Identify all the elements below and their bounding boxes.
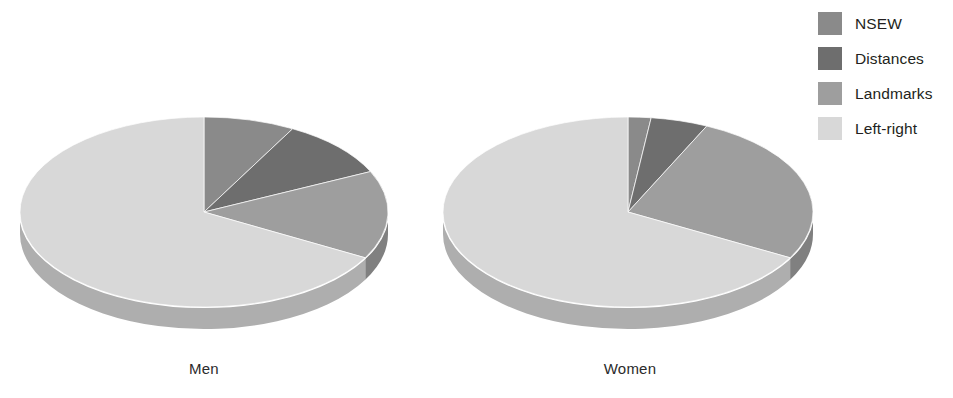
pie-label-women: Women: [545, 360, 715, 377]
pie-label-men: Men: [124, 360, 284, 377]
chart-legend: NSEW Distances Landmarks Left-right: [818, 6, 950, 146]
pie-chart-canvas: [0, 0, 953, 398]
pie-men: [20, 117, 388, 329]
pie-women: [443, 117, 813, 329]
legend-item-left-right[interactable]: Left-right: [818, 111, 950, 146]
legend-item-distances[interactable]: Distances: [818, 41, 950, 76]
legend-item-label: Left-right: [855, 121, 917, 137]
legend-swatch-icon: [818, 117, 842, 140]
legend-item-label: Distances: [855, 51, 924, 67]
legend-swatch-icon: [818, 47, 842, 70]
legend-item-nsew[interactable]: NSEW: [818, 6, 950, 41]
legend-item-label: NSEW: [855, 16, 902, 32]
pie-chart-figure: Men Women NSEW Distances Landmarks Left-…: [0, 0, 953, 398]
legend-item-landmarks[interactable]: Landmarks: [818, 76, 950, 111]
legend-swatch-icon: [818, 82, 842, 105]
legend-swatch-icon: [818, 12, 842, 35]
legend-item-label: Landmarks: [855, 86, 933, 102]
